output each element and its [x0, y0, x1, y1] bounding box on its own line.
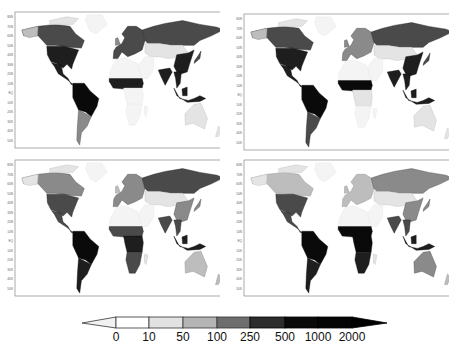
colorbar-segment	[318, 317, 352, 328]
y-tick-label: 40S	[7, 129, 13, 133]
map-panel-bottom-left: 80N70N60N50N40N30N20N10NEQ10S20S30S40S50…	[0, 148, 220, 298]
y-tick-label: EQ	[8, 91, 13, 95]
y-tick-label: 10N	[236, 84, 243, 88]
y-tick-label: 80N	[236, 163, 243, 167]
colorbar-label: 1000	[305, 330, 332, 344]
y-tick-label: EQ	[8, 239, 13, 243]
colorbar-label: 500	[275, 330, 295, 344]
colorbar-segment	[217, 317, 250, 328]
y-tick-label: EQ	[237, 239, 242, 243]
land-region-sahel	[338, 81, 372, 91]
y-tick-label: 50N	[236, 192, 243, 196]
y-tick-label: 60N	[7, 34, 14, 38]
colorbar-segments	[116, 317, 352, 328]
y-tick-label: 20S	[236, 112, 242, 116]
colorbar-label: 2000	[339, 330, 366, 344]
y-tick-label: 20N	[236, 220, 243, 224]
colorbar-segment	[149, 317, 183, 328]
y-tick-label: 40S	[7, 277, 13, 281]
land-region-sahel	[109, 79, 143, 89]
y-tick-label: EQ	[237, 93, 242, 97]
y-tick-label: 70N	[236, 27, 243, 31]
colorbar-label: 100	[207, 330, 227, 344]
y-tick-label: 20N	[236, 74, 243, 78]
colorbar-segment	[116, 317, 149, 328]
land-region-sahel	[338, 227, 372, 237]
y-tick-label: 50N	[7, 44, 14, 48]
y-tick-label: 60N	[236, 182, 243, 186]
colorbar-segment	[285, 317, 318, 328]
y-tick-label: 30S	[236, 122, 242, 126]
y-tick-label: 10S	[236, 249, 242, 253]
colorbar-label: 0	[113, 330, 120, 344]
y-tick-label: 50N	[7, 192, 14, 196]
land-region-sahel	[109, 227, 143, 237]
y-tick-label: 30N	[7, 211, 14, 215]
y-tick-label: 80N	[236, 17, 243, 21]
y-tick-label: 70N	[7, 173, 14, 177]
y-tick-label: 70N	[7, 25, 14, 29]
y-axis-ticks: 80N70N60N50N40N30N20N10NEQ10S20S30S40S50…	[236, 163, 243, 291]
land-region-africa-c	[124, 236, 144, 252]
y-tick-label: 60N	[236, 36, 243, 40]
y-tick-label: 10S	[7, 249, 13, 253]
land-region-africa-c	[124, 88, 144, 104]
y-tick-label: 60N	[7, 182, 14, 186]
y-tick-label: 10S	[7, 101, 13, 105]
colorbar-label: 250	[240, 330, 260, 344]
y-tick-label: 70N	[236, 173, 243, 177]
y-tick-label: 20S	[7, 110, 13, 114]
y-tick-label: 50N	[236, 46, 243, 50]
y-tick-label: 20S	[236, 258, 242, 262]
y-axis-ticks: 80N70N60N50N40N30N20N10NEQ10S20S30S40S50…	[236, 17, 243, 145]
y-tick-label: 50S	[236, 287, 242, 291]
colorbar-labels: 0105010025050010002000	[113, 330, 366, 344]
colorbar-label: 50	[176, 330, 190, 344]
y-tick-label: 20N	[7, 220, 14, 224]
colorbar-max-extend-triangle	[352, 317, 387, 328]
y-axis-ticks: 80N70N60N50N40N30N20N10NEQ10S20S30S40S50…	[7, 163, 14, 291]
y-axis-ticks: 80N70N60N50N40N30N20N10NEQ10S20S30S40S50…	[7, 15, 14, 143]
y-tick-label: 20S	[7, 258, 13, 262]
y-tick-label: 50S	[236, 141, 242, 145]
y-tick-label: 30S	[236, 268, 242, 272]
colorbar-segment	[250, 317, 285, 328]
y-tick-label: 10S	[236, 103, 242, 107]
map-panel-bottom-right: 80N70N60N50N40N30N20N10NEQ10S20S30S40S50…	[229, 148, 449, 298]
land-region-africa-c	[353, 236, 373, 252]
y-tick-label: 40N	[7, 201, 14, 205]
y-tick-label: 20N	[7, 72, 14, 76]
colorbar-label: 10	[142, 330, 156, 344]
y-tick-label: 40S	[236, 277, 242, 281]
y-tick-label: 10N	[236, 230, 243, 234]
y-tick-label: 50S	[7, 139, 13, 143]
y-tick-label: 50S	[7, 287, 13, 291]
y-tick-label: 30N	[236, 65, 243, 69]
land-region-africa-c	[353, 90, 373, 106]
y-tick-label: 30S	[7, 268, 13, 272]
y-tick-label: 30N	[7, 63, 14, 67]
map-panel-top-left: 80N70N60N50N40N30N20N10NEQ10S20S30S40S50…	[0, 0, 220, 150]
colorbar-min-extend-triangle	[82, 317, 116, 328]
y-tick-label: 30N	[236, 211, 243, 215]
y-tick-label: 80N	[7, 15, 14, 19]
colorbar: 0105010025050010002000	[80, 312, 390, 348]
y-tick-label: 30S	[7, 120, 13, 124]
y-tick-label: 40N	[236, 201, 243, 205]
colorbar-segment	[183, 317, 217, 328]
y-tick-label: 10N	[7, 230, 14, 234]
y-tick-label: 40S	[236, 131, 242, 135]
y-tick-label: 40N	[236, 55, 243, 59]
y-tick-label: 10N	[7, 82, 14, 86]
y-tick-label: 80N	[7, 163, 14, 167]
y-tick-label: 40N	[7, 53, 14, 57]
map-panel-top-right: 80N70N60N50N40N30N20N10NEQ10S20S30S40S50…	[229, 2, 449, 152]
